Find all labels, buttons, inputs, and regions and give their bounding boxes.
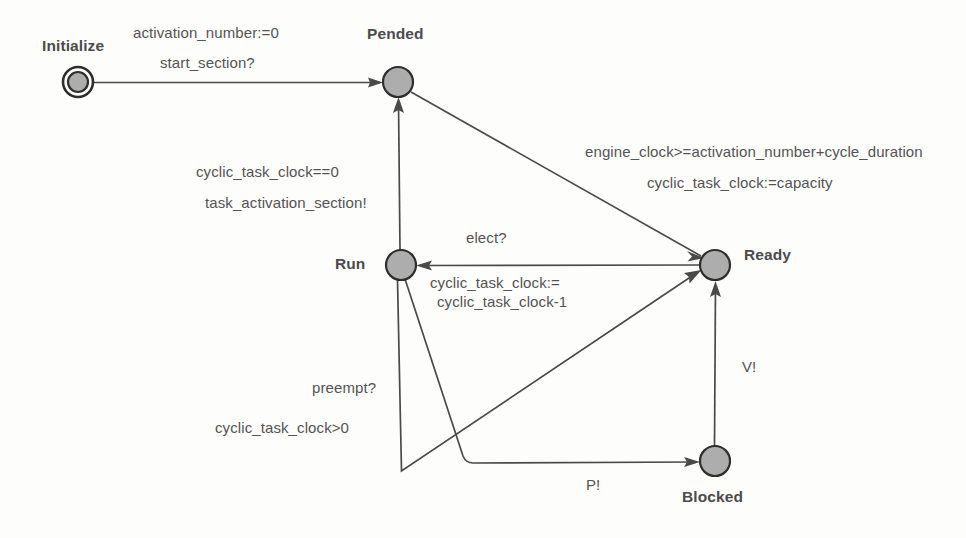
edge-blocked-to-ready [710, 281, 721, 446]
node-initialize[interactable] [63, 67, 93, 97]
transition-label-v-signal: V! [742, 357, 756, 376]
transition-label-cyclic-task-clock-minus: cyclic_task_clock-1 [437, 292, 567, 311]
edge-initialize-to-pended [94, 78, 383, 88]
state-machine-diagram: Initialize Pended Run Ready Blocked acti… [0, 0, 966, 538]
transition-label-preempt: preempt? [312, 378, 376, 397]
edge-ready-to-run [416, 261, 700, 271]
edge-run-to-pended [393, 97, 404, 250]
state-label-pended: Pended [367, 24, 424, 43]
state-label-run: Run [335, 254, 365, 273]
transition-label-engine-clock-guard: engine_clock>=activation_number+cycle_du… [585, 142, 923, 161]
transition-label-elect: elect? [466, 228, 507, 247]
diagram-canvas [0, 0, 966, 538]
node-run[interactable] [386, 250, 416, 280]
transition-label-activation-number-assign: activation_number:=0 [133, 23, 279, 42]
state-label-ready: Ready [744, 245, 791, 264]
transition-label-cyclic-task-clock-gt-zero: cyclic_task_clock>0 [215, 418, 349, 437]
state-label-blocked: Blocked [682, 487, 743, 506]
transition-label-cyclic-task-clock-zero: cyclic_task_clock==0 [196, 162, 339, 181]
node-ready[interactable] [700, 250, 730, 280]
transition-label-task-activation-section: task_activation_section! [205, 193, 367, 212]
node-pended[interactable] [383, 67, 413, 97]
transition-label-cyclic-task-clock-capacity: cyclic_task_clock:=capacity [647, 173, 833, 192]
transition-label-p-signal: P! [586, 475, 600, 494]
transition-label-start-section: start_section? [160, 53, 255, 72]
state-label-initialize: Initialize [42, 36, 104, 55]
transition-label-cyclic-task-clock-assign: cyclic_task_clock:= [430, 273, 560, 292]
node-blocked[interactable] [700, 446, 730, 476]
